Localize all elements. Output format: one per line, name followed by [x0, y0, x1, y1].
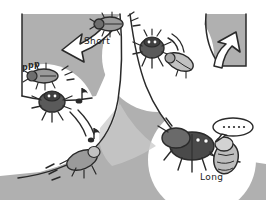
illustration-svg: pp p [0, 0, 266, 200]
label-short: Short [84, 36, 110, 46]
figure-canvas: pp p [0, 0, 266, 200]
svg-text:p: p [34, 60, 40, 69]
label-long: Long [200, 172, 223, 182]
